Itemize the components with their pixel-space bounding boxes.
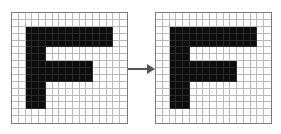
filled-pixel	[197, 27, 204, 34]
filled-pixel	[183, 89, 190, 96]
filled-pixel	[86, 41, 93, 48]
empty-pixel	[53, 54, 60, 61]
empty-pixel	[257, 96, 264, 103]
empty-pixel	[197, 102, 204, 109]
empty-pixel	[264, 54, 271, 61]
empty-pixel	[12, 41, 19, 48]
empty-pixel	[230, 89, 237, 96]
empty-pixel	[203, 102, 210, 109]
empty-pixel	[251, 13, 258, 20]
empty-pixel	[120, 61, 127, 68]
empty-pixel	[80, 89, 87, 96]
empty-pixel	[197, 54, 204, 61]
empty-pixel	[19, 27, 26, 34]
empty-pixel	[251, 20, 258, 27]
filled-pixel	[53, 61, 60, 68]
empty-pixel	[217, 102, 224, 109]
filled-pixel	[210, 27, 217, 34]
empty-pixel	[210, 102, 217, 109]
empty-pixel	[73, 47, 80, 54]
filled-pixel	[26, 68, 33, 75]
empty-pixel	[46, 116, 53, 123]
filled-pixel	[230, 27, 237, 34]
empty-pixel	[66, 96, 73, 103]
filled-pixel	[183, 41, 190, 48]
empty-pixel	[163, 34, 170, 41]
empty-pixel	[113, 61, 120, 68]
empty-pixel	[120, 75, 127, 82]
empty-pixel	[19, 82, 26, 89]
empty-pixel	[80, 96, 87, 103]
filled-pixel	[53, 41, 60, 48]
empty-pixel	[120, 41, 127, 48]
empty-pixel	[190, 116, 197, 123]
empty-pixel	[39, 20, 46, 27]
empty-pixel	[107, 68, 114, 75]
filled-pixel	[190, 75, 197, 82]
empty-pixel	[100, 47, 107, 54]
empty-pixel	[107, 20, 114, 27]
empty-pixel	[12, 13, 19, 20]
empty-pixel	[244, 96, 251, 103]
empty-pixel	[156, 96, 163, 103]
empty-pixel	[12, 116, 19, 123]
empty-pixel	[251, 116, 258, 123]
empty-pixel	[113, 75, 120, 82]
empty-pixel	[224, 54, 231, 61]
empty-pixel	[100, 96, 107, 103]
empty-pixel	[230, 13, 237, 20]
empty-pixel	[163, 116, 170, 123]
empty-pixel	[244, 20, 251, 27]
filled-pixel	[176, 41, 183, 48]
empty-pixel	[113, 89, 120, 96]
empty-pixel	[80, 116, 87, 123]
empty-pixel	[93, 102, 100, 109]
empty-pixel	[53, 116, 60, 123]
filled-pixel	[203, 34, 210, 41]
empty-pixel	[203, 82, 210, 89]
empty-pixel	[113, 109, 120, 116]
empty-pixel	[203, 47, 210, 54]
empty-pixel	[264, 102, 271, 109]
filled-pixel	[32, 47, 39, 54]
empty-pixel	[190, 20, 197, 27]
empty-pixel	[100, 109, 107, 116]
empty-pixel	[59, 116, 66, 123]
empty-pixel	[107, 47, 114, 54]
filled-pixel	[32, 89, 39, 96]
empty-pixel	[176, 109, 183, 116]
empty-pixel	[107, 75, 114, 82]
empty-pixel	[163, 47, 170, 54]
empty-pixel	[251, 75, 258, 82]
empty-pixel	[120, 13, 127, 20]
filled-pixel	[170, 27, 177, 34]
filled-pixel	[32, 41, 39, 48]
empty-pixel	[163, 109, 170, 116]
empty-pixel	[217, 47, 224, 54]
empty-pixel	[113, 27, 120, 34]
empty-pixel	[66, 102, 73, 109]
empty-pixel	[264, 82, 271, 89]
empty-pixel	[251, 61, 258, 68]
filled-pixel	[46, 61, 53, 68]
empty-pixel	[230, 116, 237, 123]
filled-pixel	[176, 96, 183, 103]
filled-pixel	[203, 61, 210, 68]
filled-pixel	[86, 27, 93, 34]
empty-pixel	[203, 54, 210, 61]
filled-pixel	[107, 27, 114, 34]
empty-pixel	[73, 96, 80, 103]
empty-pixel	[264, 109, 271, 116]
filled-pixel	[190, 68, 197, 75]
filled-pixel	[66, 27, 73, 34]
empty-pixel	[251, 82, 258, 89]
empty-pixel	[230, 109, 237, 116]
empty-pixel	[190, 102, 197, 109]
empty-pixel	[163, 54, 170, 61]
empty-pixel	[59, 102, 66, 109]
empty-pixel	[190, 89, 197, 96]
filled-pixel	[32, 68, 39, 75]
filled-pixel	[26, 34, 33, 41]
empty-pixel	[120, 34, 127, 41]
empty-pixel	[264, 75, 271, 82]
